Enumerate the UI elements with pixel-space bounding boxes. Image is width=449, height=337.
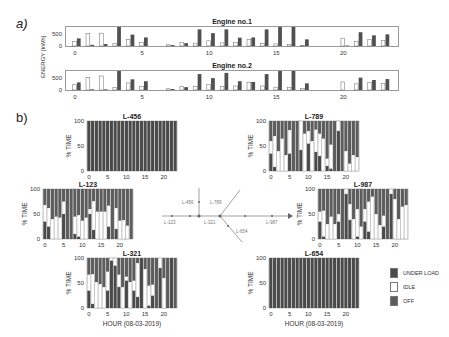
legend: UNDER LOAD IDLE OFF	[390, 268, 439, 306]
svg-text:HOUR (08-03-2019): HOUR (08-03-2019)	[285, 320, 344, 328]
panel-a-label: a)	[16, 16, 28, 31]
node-label-l654: L-654	[236, 229, 248, 234]
svg-text:50: 50	[77, 143, 84, 149]
svg-text:0: 0	[263, 168, 267, 174]
svg-text:500: 500	[52, 75, 63, 81]
svg-text:0: 0	[81, 305, 85, 311]
svg-text:10: 10	[305, 311, 312, 317]
svg-text:0: 0	[59, 43, 63, 49]
svg-text:15: 15	[273, 94, 280, 100]
svg-text:100: 100	[30, 186, 41, 192]
off-swatch-icon	[390, 296, 398, 306]
svg-text:5: 5	[140, 50, 144, 56]
node-label-l123: L-123	[164, 220, 176, 225]
svg-text:% TIME: % TIME	[247, 134, 254, 158]
svg-text:HOUR (08-03-2019): HOUR (08-03-2019)	[103, 320, 162, 328]
svg-text:20: 20	[343, 311, 350, 317]
svg-text:0: 0	[269, 174, 273, 180]
svg-text:20: 20	[340, 50, 347, 56]
svg-text:20: 20	[340, 94, 347, 100]
svg-text:% TIME: % TIME	[65, 134, 72, 158]
legend-item-under-load: UNDER LOAD	[390, 268, 439, 278]
energy-y-axis-label: ENERGY [kWh]	[40, 36, 46, 78]
svg-text:L-987: L-987	[354, 181, 372, 188]
svg-text:0: 0	[312, 236, 316, 242]
svg-text:0: 0	[37, 236, 41, 242]
svg-text:15: 15	[373, 242, 380, 248]
engine2-title: Engine no.2	[65, 62, 399, 69]
svg-text:5: 5	[140, 94, 144, 100]
legend-label: UNDER LOAD	[403, 270, 439, 276]
engine1-title: Engine no.1	[65, 18, 399, 25]
svg-text:50: 50	[308, 211, 315, 217]
legend-label: IDLE	[403, 284, 415, 290]
svg-text:20: 20	[161, 311, 168, 317]
svg-text:10: 10	[206, 94, 213, 100]
svg-text:L-654: L-654	[305, 250, 323, 257]
svg-text:L-123: L-123	[79, 181, 97, 188]
svg-text:50: 50	[259, 143, 266, 149]
svg-text:0: 0	[59, 87, 63, 93]
svg-text:15: 15	[324, 311, 331, 317]
svg-text:100: 100	[74, 255, 85, 261]
svg-text:10: 10	[206, 50, 213, 56]
svg-text:% TIME: % TIME	[247, 271, 254, 295]
svg-text:100: 100	[256, 118, 267, 124]
panel-b-label: b)	[16, 110, 28, 125]
svg-text:0: 0	[263, 305, 267, 311]
svg-text:0: 0	[43, 242, 47, 248]
svg-text:50: 50	[77, 280, 84, 286]
legend-label: OFF	[403, 298, 414, 304]
node-label-l789: L-789	[210, 200, 222, 205]
svg-text:L-456: L-456	[123, 113, 141, 120]
svg-text:% TIME: % TIME	[65, 271, 72, 295]
legend-item-off: OFF	[390, 296, 439, 306]
svg-text:0: 0	[73, 94, 77, 100]
svg-text:0: 0	[73, 50, 77, 56]
energy-bars-1: 051015200500	[65, 70, 399, 103]
svg-text:20: 20	[392, 242, 399, 248]
svg-text:100: 100	[74, 118, 85, 124]
svg-text:5: 5	[106, 311, 110, 317]
legend-item-idle: IDLE	[390, 282, 439, 292]
node-label-l987: L-987	[266, 220, 278, 225]
svg-text:20: 20	[161, 174, 168, 180]
svg-text:0: 0	[87, 311, 91, 317]
svg-text:0: 0	[269, 311, 273, 317]
svg-text:100: 100	[305, 186, 316, 192]
svg-text:% TIME: % TIME	[21, 202, 28, 226]
node-label-l321: L-321	[204, 220, 216, 225]
svg-text:10: 10	[123, 311, 130, 317]
svg-text:5: 5	[288, 311, 292, 317]
svg-text:500: 500	[52, 31, 63, 37]
svg-text:L-321: L-321	[123, 250, 141, 257]
under-load-swatch-icon	[390, 268, 398, 278]
svg-text:15: 15	[142, 311, 149, 317]
svg-text:% TIME: % TIME	[296, 202, 303, 226]
energy-bars-0: 051015200500	[65, 26, 399, 59]
svg-text:50: 50	[259, 280, 266, 286]
svg-text:0: 0	[81, 168, 85, 174]
svg-text:50: 50	[33, 211, 40, 217]
svg-text:L-789: L-789	[305, 113, 323, 120]
svg-text:15: 15	[273, 50, 280, 56]
idle-swatch-icon	[390, 282, 398, 292]
svg-text:100: 100	[256, 255, 267, 261]
